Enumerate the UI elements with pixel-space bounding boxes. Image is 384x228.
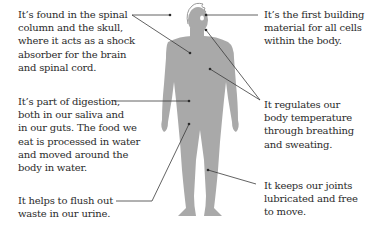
annotation-cells: It’s the first building material for all… <box>264 8 382 48</box>
dot-knee <box>207 169 210 172</box>
dot-belly <box>188 100 191 103</box>
dot-head-left <box>169 14 172 17</box>
dot-chest <box>189 52 192 55</box>
annotation-urine: It helps to flush out waste in our urine… <box>18 194 118 220</box>
annotation-joints: It keeps our joints lubricated and free … <box>264 179 382 219</box>
dot-arm <box>209 68 212 71</box>
dot-head-right <box>205 14 208 17</box>
body-water-infographic: It’s found in the spinal column and the … <box>0 0 384 228</box>
annotation-temperature: It regulates our body temperature throug… <box>264 98 382 151</box>
human-silhouette <box>161 7 238 216</box>
dot-neck <box>205 29 208 32</box>
annotation-digestion: It’s part of digestion, both in our sali… <box>18 95 142 174</box>
ear-highlight <box>200 16 204 21</box>
annotation-spinal: It’s found in the spinal column and the … <box>18 8 136 74</box>
dot-crotch <box>188 123 191 126</box>
